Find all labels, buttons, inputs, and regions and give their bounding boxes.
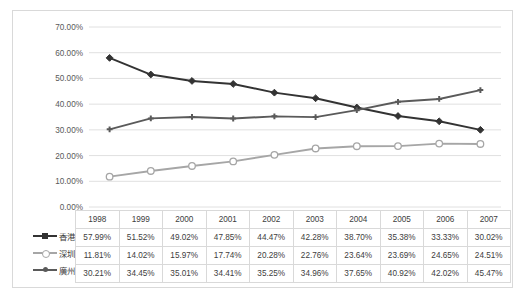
table-cell: 47.85% [206, 229, 250, 247]
data-point-marker-circle [106, 173, 113, 180]
data-point-marker-cross [272, 113, 278, 119]
data-point-marker-diamond [106, 54, 113, 61]
data-point-marker-diamond [395, 113, 402, 120]
data-point-marker-cross [189, 114, 195, 120]
legend-label: 香港 [59, 230, 75, 242]
table-header-cell: 2007 [467, 211, 511, 229]
table-header-cell: 2005 [380, 211, 424, 229]
table-header-cell: 1999 [119, 211, 163, 229]
table-cell: 38.70% [337, 229, 381, 247]
data-table: 1998199920002001200220032004200520062007… [75, 210, 511, 283]
legend-key-hollow-circle-icon [33, 248, 57, 258]
table-cell: 35.25% [250, 265, 294, 283]
series-group [106, 54, 484, 179]
table-cell: 20.28% [250, 247, 294, 265]
y-axis-tick-labels: 70.00%60.00%50.00%40.00%30.00%20.00%10.0… [55, 23, 83, 211]
series-line [110, 58, 481, 130]
legend-label: 廣州 [59, 264, 75, 276]
table-row: 57.99%51.52%49.02%47.85%44.47%42.28%38.7… [76, 229, 511, 247]
data-point-marker-cross [107, 126, 113, 132]
table-cell: 34.96% [293, 265, 337, 283]
table-cell: 34.41% [206, 265, 250, 283]
data-point-marker-circle [436, 140, 443, 147]
series-filled-diamond [106, 54, 484, 133]
table-cell: 44.47% [250, 229, 294, 247]
table-header-cell: 2004 [337, 211, 381, 229]
y-axis-tick-label: 40.00% [55, 100, 83, 109]
y-axis-tick-label: 20.00% [55, 152, 83, 161]
plot-area: 70.00%60.00%50.00%40.00%30.00%20.00%10.0… [13, 11, 512, 211]
y-axis-tick-label: 30.00% [55, 126, 83, 135]
data-point-marker-circle [395, 143, 402, 150]
data-point-marker-circle [312, 145, 319, 152]
table-header-cell: 1998 [76, 211, 120, 229]
line-chart-svg: 70.00%60.00%50.00%40.00%30.00%20.00%10.0… [13, 11, 512, 211]
table-cell: 51.52% [119, 229, 163, 247]
data-point-marker-cross [478, 87, 484, 93]
y-axis-tick-label: 70.00% [55, 23, 83, 32]
data-point-marker-circle [354, 143, 361, 150]
data-point-marker-circle [189, 163, 196, 170]
data-point-marker-diamond [230, 81, 237, 88]
data-point-marker-cross [436, 96, 442, 102]
table-cell: 49.02% [163, 229, 207, 247]
table-cell: 24.51% [467, 247, 511, 265]
data-point-marker-diamond [147, 71, 154, 78]
data-point-marker-circle [477, 141, 484, 148]
table-cell: 45.47% [467, 265, 511, 283]
series-line [110, 144, 481, 177]
table-cell: 37.65% [337, 265, 381, 283]
table-header-cell: 2002 [250, 211, 294, 229]
y-axis-tick-label: 50.00% [55, 74, 83, 83]
data-point-marker-circle [148, 168, 155, 175]
table-row: 11.81%14.02%15.97%17.74%20.28%22.76%23.6… [76, 247, 511, 265]
table-cell: 34.45% [119, 265, 163, 283]
table-cell: 40.92% [380, 265, 424, 283]
legend: 香港深圳廣州 [27, 227, 75, 278]
legend-marker-icon [42, 233, 48, 239]
legend-row: 香港 [27, 227, 75, 244]
data-point-marker-diamond [271, 89, 278, 96]
y-axis-tick-label: 10.00% [55, 177, 83, 186]
table-cell: 17.74% [206, 247, 250, 265]
table-header-cell: 2001 [206, 211, 250, 229]
table-header-cell: 2003 [293, 211, 337, 229]
table-cell: 22.76% [293, 247, 337, 265]
table-cell: 33.33% [424, 229, 468, 247]
legend-key-cross-star-icon [33, 265, 57, 275]
legend-row: 深圳 [27, 244, 75, 261]
table-cell: 35.38% [380, 229, 424, 247]
table-header-cell: 2006 [424, 211, 468, 229]
table-cell: 11.81% [76, 247, 120, 265]
data-point-marker-diamond [477, 126, 484, 133]
table-cell: 30.02% [467, 229, 511, 247]
table-cell: 23.69% [380, 247, 424, 265]
series-hollow-circle [106, 140, 483, 180]
data-point-marker-cross [148, 116, 154, 122]
table-cell: 15.97% [163, 247, 207, 265]
table-cell: 24.65% [424, 247, 468, 265]
table-cell: 57.99% [76, 229, 120, 247]
table-cell: 14.02% [119, 247, 163, 265]
table-cell: 42.28% [293, 229, 337, 247]
data-point-marker-circle [271, 152, 278, 159]
data-point-marker-diamond [312, 95, 319, 102]
y-axis-tick-label: 60.00% [55, 49, 83, 58]
chart-container: 70.00%60.00%50.00%40.00%30.00%20.00%10.0… [12, 10, 513, 288]
legend-marker-icon [43, 267, 48, 272]
table-header-row: 1998199920002001200220032004200520062007 [76, 211, 511, 229]
table-header-cell: 2000 [163, 211, 207, 229]
data-point-marker-diamond [436, 118, 443, 125]
data-point-marker-cross [230, 116, 236, 122]
table-cell: 30.21% [76, 265, 120, 283]
table-cell: 42.02% [424, 265, 468, 283]
table-cell: 23.64% [337, 247, 381, 265]
legend-key-filled-diamond-icon [33, 231, 57, 241]
legend-label: 深圳 [59, 247, 75, 259]
data-point-marker-circle [230, 158, 237, 165]
table-row: 30.21%34.45%35.01%34.41%35.25%34.96%37.6… [76, 265, 511, 283]
cut-off-title-fragment [4, 0, 304, 7]
legend-row: 廣州 [27, 261, 75, 278]
table-cell: 35.01% [163, 265, 207, 283]
data-point-marker-cross [313, 114, 319, 120]
